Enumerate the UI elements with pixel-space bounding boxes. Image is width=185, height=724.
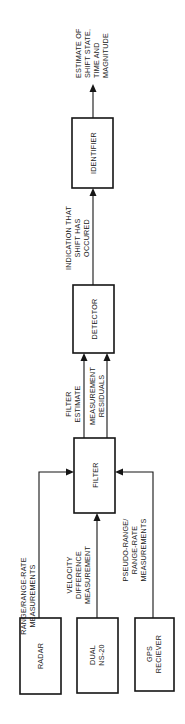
block-label: IDENTIFIER — [89, 132, 98, 174]
label-pseudo-range-measurements: PSEUDO-RANGE/ RANGE-RATE MEASUREMENTS — [121, 518, 148, 581]
svg-text:MEASUREMENTS: MEASUREMENTS — [139, 518, 148, 581]
svg-text:ESTIMATE: ESTIMATE — [73, 385, 82, 422]
svg-text:ESTIMATE OF: ESTIMATE OF — [74, 28, 83, 78]
label-indication-shift-occurred: INDICATION THAT SHIFT HAS OCCURED — [64, 206, 91, 271]
svg-text:TIME AND: TIME AND — [92, 42, 101, 78]
svg-text:PSEUDO-RANGE/: PSEUDO-RANGE/ — [121, 519, 130, 582]
svg-text:INDICATION THAT: INDICATION THAT — [64, 206, 73, 271]
block-label: RECIEVER — [154, 635, 163, 673]
arrow-head-icon — [66, 469, 74, 476]
block-label: FILTER — [91, 462, 100, 487]
label-estimate-output: ESTIMATE OF SHIFT STATE, TIME AND MAGNIT… — [74, 28, 110, 78]
arrow-head-icon — [90, 188, 97, 196]
signal-flow-diagram: RADAR DUAL NS-20 GPS RECIEVER FILTER DET… — [0, 0, 185, 724]
label-range-rate-measurements: RANGE/RANGE-RATE MEASUREMENTS — [19, 557, 37, 634]
svg-text:RESIDUALS: RESIDUALS — [97, 375, 106, 418]
block-detector: DETECTOR — [73, 285, 114, 353]
svg-text:MEASUREMENT: MEASUREMENT — [83, 546, 92, 605]
svg-text:DIFFERENCE: DIFFERENCE — [74, 551, 83, 599]
arrow-head-icon — [104, 353, 111, 361]
svg-text:MAGNITUDE: MAGNITUDE — [101, 33, 110, 78]
label-velocity-difference-measurement: VELOCITY DIFFERENCE MEASUREMENT — [65, 546, 92, 605]
svg-text:SHIFT STATE,: SHIFT STATE, — [83, 29, 92, 78]
block-gps-receiver: GPS RECIEVER — [135, 618, 174, 691]
label-measurement-residuals: MEASUREMENT RESIDUALS — [88, 367, 106, 426]
block-dual-ns20: DUAL NS-20 — [77, 618, 118, 693]
svg-text:RANGE-RATE: RANGE-RATE — [130, 526, 139, 575]
svg-text:RANGE/RANGE-RATE: RANGE/RANGE-RATE — [19, 557, 28, 634]
svg-text:OCCURED: OCCURED — [82, 219, 91, 257]
svg-text:MEASUREMENTS: MEASUREMENTS — [28, 564, 37, 627]
svg-text:VELOCITY: VELOCITY — [65, 556, 74, 593]
svg-text:MEASUREMENT: MEASUREMENT — [88, 367, 97, 426]
label-filter-estimate: FILTER ESTIMATE — [64, 385, 82, 422]
svg-text:FILTER: FILTER — [64, 391, 73, 416]
arrow-head-icon — [94, 513, 101, 521]
block-label: GPS — [145, 646, 154, 662]
block-identifier: IDENTIFIER — [72, 118, 113, 188]
block-label: DUAL — [88, 645, 97, 665]
block-filter: FILTER — [74, 438, 115, 513]
svg-text:SHIFT HAS: SHIFT HAS — [73, 218, 82, 257]
arrow-head-icon — [90, 84, 97, 92]
arrow-head-icon — [81, 353, 88, 361]
block-label: RADAR — [36, 643, 45, 669]
block-label: DETECTOR — [90, 298, 99, 339]
block-label: NS-20 — [97, 644, 106, 665]
arrow-head-icon — [115, 469, 123, 476]
radar-to-filter-wire — [39, 472, 70, 618]
